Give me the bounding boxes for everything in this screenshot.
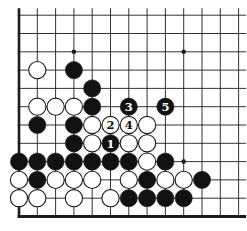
- black-stone: [65, 135, 82, 152]
- black-stone: [120, 190, 137, 207]
- white-stone: [29, 62, 46, 79]
- white-stone: [139, 116, 156, 133]
- black-stone: [65, 116, 82, 133]
- black-stone: [157, 153, 174, 170]
- black-stone: [84, 153, 101, 170]
- stone-move-2: [102, 116, 119, 133]
- black-stone: [29, 116, 46, 133]
- white-stone: [29, 98, 46, 115]
- black-stone: [65, 153, 82, 170]
- stone-move-3: [120, 98, 137, 115]
- white-stone: [65, 190, 82, 207]
- white-stone: [120, 171, 137, 188]
- star-point: [181, 159, 186, 164]
- stone-move-5: [157, 98, 174, 115]
- white-stone: [139, 135, 156, 152]
- stone-move-4: [120, 116, 137, 133]
- black-stone: [65, 62, 82, 79]
- black-stone: [139, 190, 156, 207]
- white-stone: [157, 171, 174, 188]
- black-stone: [10, 153, 27, 170]
- white-stone: [139, 153, 156, 170]
- white-stone: [84, 171, 101, 188]
- black-stone: [47, 153, 64, 170]
- black-stone: [139, 171, 156, 188]
- white-stone: [120, 135, 137, 152]
- white-stone: [10, 190, 27, 207]
- black-stone: [102, 153, 119, 170]
- black-stone: [120, 153, 137, 170]
- black-stone: [29, 171, 46, 188]
- star-point: [72, 50, 77, 55]
- white-stone: [102, 190, 119, 207]
- stone-move-1: [102, 135, 119, 152]
- black-stone: [84, 80, 101, 97]
- black-stone: [175, 190, 192, 207]
- white-stone: [84, 135, 101, 152]
- white-stone: [65, 98, 82, 115]
- white-stone: [175, 171, 192, 188]
- white-stone: [47, 98, 64, 115]
- white-stone: [65, 171, 82, 188]
- black-stone: [84, 98, 101, 115]
- white-stone: [29, 190, 46, 207]
- black-stone: [157, 190, 174, 207]
- white-stone: [10, 171, 27, 188]
- black-stone: [193, 171, 210, 188]
- white-stone: [47, 171, 64, 188]
- white-stone: [84, 116, 101, 133]
- go-diagram: 35241: [0, 0, 247, 231]
- star-point: [181, 50, 186, 55]
- go-board-svg: 35241: [0, 0, 247, 231]
- black-stone: [29, 153, 46, 170]
